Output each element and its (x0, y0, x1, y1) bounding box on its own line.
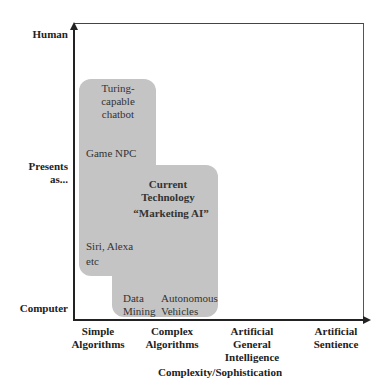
item-game-npc: Game NPC (86, 147, 136, 160)
region-title: Current Technology (120, 178, 216, 204)
item-line: etc (86, 255, 133, 268)
x-tick-line: General (214, 338, 290, 351)
x-axis-arrow-icon (363, 316, 371, 324)
y-label-human: Human (2, 28, 68, 41)
x-tick-line: Intelligence (214, 351, 290, 364)
x-tick-simple-algorithms: Simple Algorithms (62, 325, 134, 351)
item-autonomous-vehicles: Autonomous Vehicles (161, 292, 218, 318)
item-line: Vehicles (161, 305, 218, 318)
y-label-presents-line1: Presents (2, 160, 68, 173)
y-label-presents-line2: as... (2, 173, 68, 186)
item-line: Siri, Alexa (86, 240, 133, 253)
x-tick-agi: Artificial General Intelligence (214, 325, 290, 364)
region-title-line2: Technology (120, 191, 216, 204)
x-tick-artificial-sentience: Artificial Sentience (300, 325, 372, 351)
item-line: Autonomous (161, 292, 218, 305)
item-data-mining: Data Mining (123, 292, 155, 318)
x-tick-line: Artificial (300, 325, 372, 338)
item-line: Turing- (84, 82, 152, 95)
item-siri-alexa: Siri, Alexa etc (86, 240, 133, 268)
item-line: capable (84, 95, 152, 108)
x-tick-line: Sentience (300, 338, 372, 351)
y-label-computer: Computer (2, 302, 68, 315)
x-tick-complex-algorithms: Complex Algorithms (136, 325, 208, 351)
x-axis-title: Complexity/Sophistication (140, 366, 300, 379)
y-label-presents-as: Presents as... (2, 160, 68, 186)
x-axis (73, 319, 365, 321)
x-tick-line: Complex (136, 325, 208, 338)
y-axis-arrow-icon (70, 22, 78, 30)
y-axis (73, 26, 75, 320)
x-tick-line: Algorithms (136, 338, 208, 351)
item-line: chatbot (84, 108, 152, 121)
x-tick-line: Artificial (214, 325, 290, 338)
item-line: Data (123, 292, 155, 305)
item-line: Mining (123, 305, 155, 318)
region-subtitle: “Marketing AI” (118, 207, 224, 220)
item-turing-chatbot: Turing- capable chatbot (84, 82, 152, 121)
region-title-line1: Current (120, 178, 216, 191)
x-tick-line: Algorithms (62, 338, 134, 351)
x-tick-line: Simple (62, 325, 134, 338)
